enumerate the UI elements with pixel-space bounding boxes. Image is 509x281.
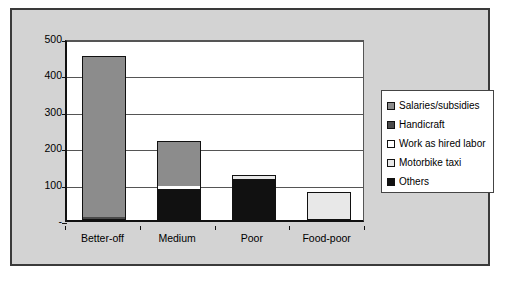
y-axis-labels: 500400300200100-	[20, 40, 62, 222]
legend-swatch-icon	[387, 159, 395, 167]
y-axis-tick	[62, 150, 67, 151]
y-axis-tick-label: -	[28, 216, 62, 226]
y-axis-tick-label: 500	[28, 34, 62, 44]
legend-item-label: Handicraft	[399, 120, 445, 130]
y-axis-tick-label: 300	[28, 107, 62, 117]
x-axis-tick-label: Poor	[215, 232, 289, 244]
x-axis-tick-label: Better-off	[65, 232, 139, 244]
legend-swatch-icon	[387, 121, 395, 129]
legend-item[interactable]: Others	[387, 172, 489, 191]
x-axis-tick-label: Medium	[140, 232, 214, 244]
legend-item-label: Others	[399, 177, 429, 187]
y-axis-tick	[62, 223, 67, 224]
legend-item-label: Salaries/subsidies	[399, 101, 480, 111]
legend-item-label: Work as hired labor	[399, 139, 486, 149]
bar-segment[interactable]	[82, 217, 126, 220]
stacked-bar[interactable]	[157, 141, 201, 220]
legend-item[interactable]: Work as hired labor	[387, 134, 489, 153]
stacked-bar[interactable]	[232, 175, 276, 220]
plot-area	[65, 40, 364, 222]
stacked-bar[interactable]	[82, 56, 126, 220]
bar-segment[interactable]	[232, 179, 276, 220]
legend-swatch-icon	[387, 140, 395, 148]
bar-segment[interactable]	[307, 192, 351, 220]
y-axis-tick-label: 200	[28, 143, 62, 153]
x-axis-tick	[65, 226, 66, 230]
legend-item-label: Motorbike taxi	[399, 158, 461, 168]
bar-segment[interactable]	[157, 189, 201, 220]
legend-item[interactable]: Motorbike taxi	[387, 153, 489, 172]
x-axis-tick-label: Food-poor	[290, 232, 364, 244]
x-axis-tick	[140, 226, 141, 230]
legend-item[interactable]: Handicraft	[387, 115, 489, 134]
chart-container: 500400300200100- Better-offMediumPoorFoo…	[10, 8, 490, 266]
y-axis-tick	[62, 77, 67, 78]
legend-swatch-icon	[387, 178, 395, 186]
legend-swatch-icon	[387, 102, 395, 110]
x-axis-labels: Better-offMediumPoorFood-poor	[65, 226, 364, 244]
bar-segment[interactable]	[82, 56, 126, 217]
y-axis-tick	[62, 187, 67, 188]
x-axis-tick	[364, 226, 365, 230]
x-axis-tick	[289, 226, 290, 230]
y-axis-tick	[62, 41, 67, 42]
y-axis-tick	[62, 114, 67, 115]
legend-item[interactable]: Salaries/subsidies	[387, 96, 489, 115]
y-axis-tick-label: 400	[28, 70, 62, 80]
x-axis-tick	[215, 226, 216, 230]
chart-legend: Salaries/subsidiesHandicraftWork as hire…	[381, 90, 494, 193]
y-axis-tick-label: 100	[28, 180, 62, 190]
bar-segment[interactable]	[157, 141, 201, 187]
stacked-bar[interactable]	[307, 192, 351, 220]
gridline	[67, 41, 363, 42]
